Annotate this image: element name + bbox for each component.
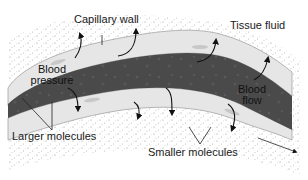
label-blood-flow-2: flow [232,95,272,106]
label-tissue-fluid: Tissue fluid [230,20,285,31]
label-blood-pressure-2: pressure [28,75,76,86]
label-capillary-wall: Capillary wall [74,14,139,25]
label-smaller-molecules: Smaller molecules [148,147,238,158]
label-larger-molecules: Larger molecules [12,131,96,142]
capillary-diagram: Capillary wall Tissue fluid Blood pressu… [0,0,308,180]
